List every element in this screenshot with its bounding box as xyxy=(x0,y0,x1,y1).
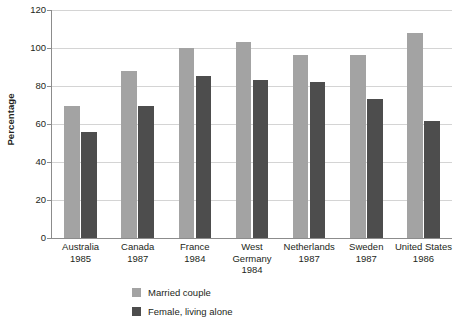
bar-group xyxy=(64,10,97,238)
bar-group xyxy=(179,10,212,238)
bar xyxy=(293,55,309,238)
legend-color-swatch xyxy=(132,307,141,316)
legend-label: Married couple xyxy=(148,287,211,298)
x-axis-category-label: United States1986 xyxy=(387,241,460,264)
x-axis-category-label-line: United States xyxy=(387,241,460,253)
bar xyxy=(310,82,326,238)
bar-group xyxy=(350,10,383,238)
bar-group xyxy=(407,10,440,238)
legend-item: Female, living alone xyxy=(132,302,392,321)
x-axis-baseline xyxy=(52,238,452,239)
bar xyxy=(179,48,195,238)
y-axis-tick-marks xyxy=(0,10,52,238)
bar xyxy=(424,121,440,238)
bar xyxy=(138,106,154,238)
bar xyxy=(196,76,212,238)
x-axis-category-label-line: 1984 xyxy=(215,264,288,276)
x-axis-category-labels: Australia1985Canada1987France1984WestGer… xyxy=(52,241,452,283)
bar xyxy=(121,71,137,238)
bar xyxy=(407,33,423,238)
bar xyxy=(367,99,383,238)
legend-item: Married couple xyxy=(132,283,392,302)
bar xyxy=(81,132,97,238)
bar-group xyxy=(236,10,269,238)
bar xyxy=(350,55,366,238)
legend-label: Female, living alone xyxy=(148,306,233,317)
bar-chart: Percentage 020406080100120 Australia1985… xyxy=(0,0,462,326)
legend-color-swatch xyxy=(132,288,141,297)
bar-group xyxy=(293,10,326,238)
bar-group xyxy=(121,10,154,238)
chart-legend: Married coupleFemale, living alone xyxy=(132,283,392,321)
bar xyxy=(253,80,269,238)
plot-area xyxy=(52,10,452,238)
x-axis-category-label-line: 1986 xyxy=(387,253,460,265)
bar xyxy=(64,106,80,238)
bar xyxy=(236,42,252,238)
